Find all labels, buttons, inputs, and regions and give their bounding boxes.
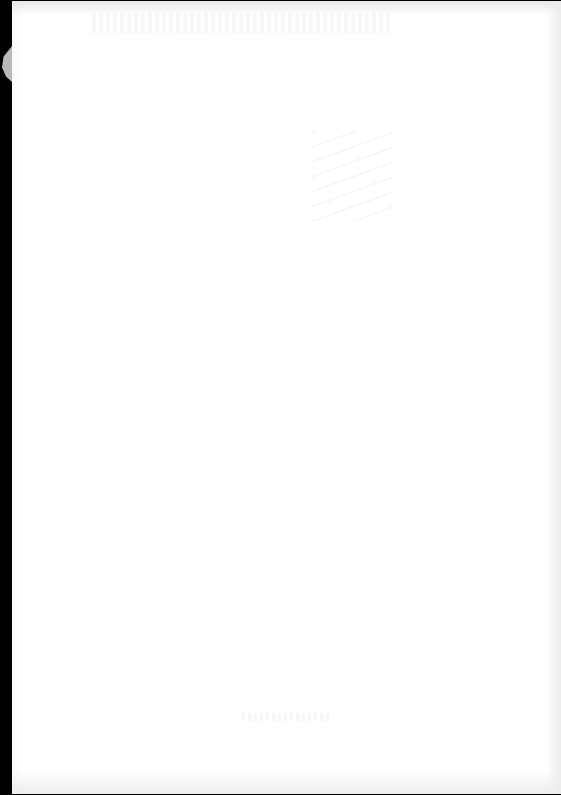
page-edge-shadow [547,1,561,794]
bleed-through-header-marks [92,13,392,33]
bleed-through-footer-marks [242,713,332,721]
blank-page [12,1,561,794]
bleed-through-handwriting-marks [312,131,392,221]
